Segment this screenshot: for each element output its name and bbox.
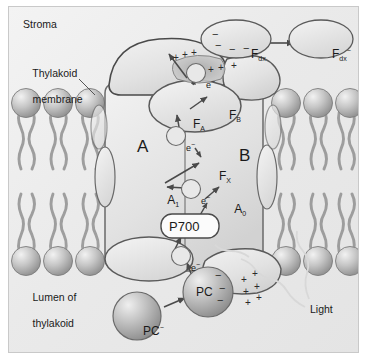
arrow-pc-recycle <box>164 298 185 307</box>
label-thylakoid-line1: Thylakoid <box>32 67 77 79</box>
pc-red-sup: − <box>160 324 164 331</box>
svg-text:−: − <box>219 282 225 294</box>
svg-text:+: + <box>252 268 258 279</box>
label-fdx-oxidized: Fdx <box>231 32 266 79</box>
label-a0: A0 <box>215 187 246 234</box>
label-stroma: Stroma <box>23 18 57 31</box>
label-lumen-line2: thylakoid <box>33 317 74 329</box>
label-electron-top: e− <box>191 67 215 103</box>
label-light: Light <box>310 303 333 316</box>
label-lumen-line1: Lumen of <box>33 291 77 303</box>
label-electron-a1: e− <box>186 183 210 219</box>
pc-red-base: PC <box>143 324 160 338</box>
label-thylakoid-line2: membrane <box>33 93 83 105</box>
label-lumen: Lumen of thylakoid <box>15 278 76 344</box>
f-a-sub: A <box>200 125 205 132</box>
a1-sub: 1 <box>175 201 179 208</box>
svg-text:+: + <box>245 297 251 308</box>
label-subunit-a: A <box>137 136 148 157</box>
a0-sub: 0 <box>242 210 246 217</box>
svg-text:+: + <box>241 274 247 285</box>
e-top-sup: − <box>211 78 215 85</box>
f-x-sub: X <box>226 177 231 184</box>
fdx-ox-sub: dx <box>258 55 265 62</box>
svg-text:+: + <box>254 281 260 292</box>
label-thylakoid-membrane: Thylakoid membrane <box>15 54 83 120</box>
e-mid-sup: − <box>191 141 195 148</box>
label-p700: P700 <box>169 219 199 235</box>
e-a1-sup: − <box>206 194 210 201</box>
svg-text:−: − <box>215 269 221 281</box>
svg-text:+: + <box>182 49 188 60</box>
label-electron-lumen: e− <box>176 250 200 286</box>
label-electron-mid: e− <box>171 130 195 166</box>
fdx-red-sup: − <box>347 47 351 54</box>
figure-canvas: +++ +++ ++ ++ ++ − − − − − − <box>0 0 367 360</box>
label-fdx-reduced: Fdx− <box>312 32 351 79</box>
svg-text:+: + <box>191 47 197 58</box>
svg-text:−: − <box>215 39 221 51</box>
fdx-red-sub: dx <box>339 55 346 62</box>
membrane-right-bilayer <box>272 89 359 276</box>
diagram-frame: +++ +++ ++ ++ ++ − − − − − − <box>8 6 359 353</box>
f-b-sub: B <box>236 116 241 123</box>
label-pc-oxidized: PC <box>196 285 213 300</box>
svg-text:+: + <box>243 286 249 297</box>
e-lumen-sup: − <box>196 261 200 268</box>
svg-text:+: + <box>173 52 179 63</box>
label-pc-reduced: PC− <box>123 309 164 353</box>
svg-text:−: − <box>217 294 223 306</box>
label-subunit-b: B <box>239 145 250 166</box>
svg-text:+: + <box>218 62 224 73</box>
svg-text:+: + <box>256 292 262 303</box>
